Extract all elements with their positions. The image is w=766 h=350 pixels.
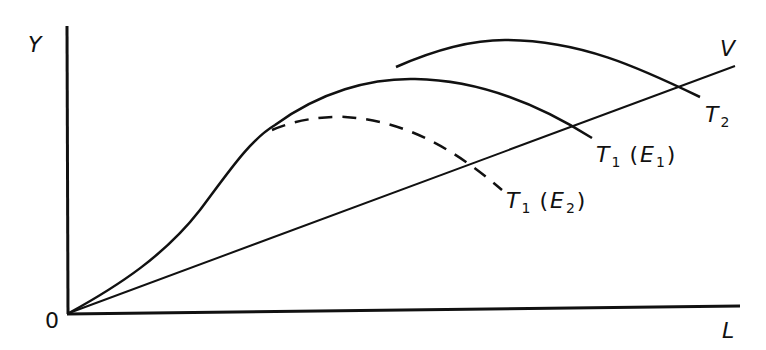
v-line-label: V bbox=[720, 38, 735, 60]
close-paren: ) bbox=[577, 188, 586, 213]
y-axis bbox=[67, 26, 68, 314]
close-paren: ) bbox=[667, 142, 676, 167]
x-axis bbox=[67, 306, 740, 314]
t2-label: T2 bbox=[705, 104, 729, 129]
t2-curve bbox=[396, 40, 700, 97]
v-line bbox=[69, 66, 735, 313]
y-axis-label: Y bbox=[28, 34, 41, 56]
t1-e1-label: T1 (E1) bbox=[596, 144, 677, 169]
open-paren: ( bbox=[629, 142, 638, 167]
diagram-canvas bbox=[0, 0, 766, 350]
t1-e2-label: T1 (E2) bbox=[506, 190, 587, 215]
x-axis-label: L bbox=[722, 320, 734, 342]
origin-label: 0 bbox=[45, 310, 59, 332]
t1-e2-curve bbox=[272, 117, 502, 190]
open-paren: ( bbox=[539, 188, 548, 213]
